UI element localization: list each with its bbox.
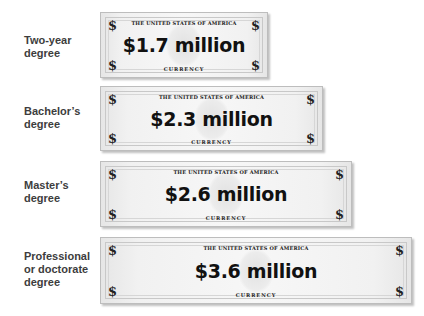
bar-professional-doctorate-bill: $ $ $ $ THE UNITED STATES OF AMERICA $3.… <box>100 237 412 304</box>
value-label: $3.6 million <box>101 260 411 282</box>
bill-footer: CURRENCY <box>101 292 411 298</box>
category-label-two-year: Two-year degree <box>24 34 71 60</box>
label-line: Professional <box>24 250 90 263</box>
label-line: degree <box>24 118 80 131</box>
category-label-bachelors: Bachelor’s degree <box>24 105 80 131</box>
bill-heading: THE UNITED STATES OF AMERICA <box>101 94 322 100</box>
bill-footer: CURRENCY <box>101 66 267 72</box>
value-label: $1.7 million <box>101 34 267 56</box>
label-line: or doctorate <box>24 263 90 276</box>
category-label-professional-doctorate: Professional or doctorate degree <box>24 250 90 289</box>
value-label: $2.6 million <box>101 183 351 205</box>
bill-heading: THE UNITED STATES OF AMERICA <box>101 20 267 26</box>
label-line: degree <box>24 192 69 205</box>
label-line: Two-year <box>24 34 71 47</box>
category-label-masters: Master’s degree <box>24 179 69 205</box>
label-line: degree <box>24 276 90 289</box>
bill-heading: THE UNITED STATES OF AMERICA <box>101 169 351 175</box>
label-line: degree <box>24 47 71 60</box>
bill-heading: THE UNITED STATES OF AMERICA <box>101 245 411 251</box>
label-line: Bachelor’s <box>24 105 80 118</box>
value-label: $2.3 million <box>101 108 322 130</box>
bar-two-year-bill: $ $ $ $ THE UNITED STATES OF AMERICA $1.… <box>100 12 268 78</box>
bill-footer: CURRENCY <box>101 215 351 221</box>
bar-bachelors-bill: $ $ $ $ THE UNITED STATES OF AMERICA $2.… <box>100 86 323 151</box>
bar-masters-bill: $ $ $ $ THE UNITED STATES OF AMERICA $2.… <box>100 161 352 227</box>
label-line: Master’s <box>24 179 69 192</box>
bill-footer: CURRENCY <box>101 139 322 145</box>
